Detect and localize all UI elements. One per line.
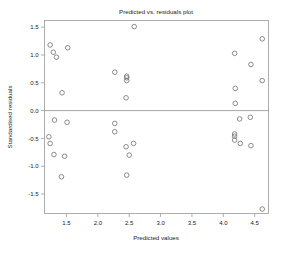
y-tick-label: 0.5 [30,80,39,86]
y-axis-label: Standardised residuals [6,86,13,149]
x-tick-label: 2.5 [125,220,134,226]
x-tick-label: 3.0 [156,220,165,226]
chart-background [0,0,282,257]
y-tick-label: 1.5 [30,24,39,30]
chart-title: Predicted vs. residuals plot [119,8,193,15]
y-tick-label: 0.0 [30,108,39,114]
y-tick-label: -0.5 [28,136,39,142]
predicted-vs-residuals-chart: Predicted vs. residuals plot 1.52.02.53.… [0,0,282,257]
x-tick-label: 2.0 [94,220,103,226]
x-tick-label: 1.5 [62,220,71,226]
y-tick-label: -1.5 [28,191,39,197]
x-tick-label: 4.5 [251,220,260,226]
x-axis-label: Predicted values [133,234,179,241]
y-tick-label: 1.0 [30,52,39,58]
x-tick-label: 3.5 [188,220,197,226]
chart-canvas: Predicted vs. residuals plot 1.52.02.53.… [0,0,282,257]
x-tick-label: 4.0 [219,220,228,226]
y-tick-label: -1.0 [28,163,39,169]
